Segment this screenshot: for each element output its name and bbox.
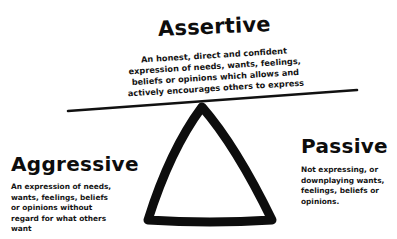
assertive-title: Assertive: [158, 14, 272, 40]
passive-title: Passive: [301, 136, 388, 156]
aggressive-description: An expression of needs, wants, feelings,…: [11, 182, 121, 235]
aggressive-description-line: wants, feelings, beliefs: [11, 193, 121, 204]
triangle-shape: [148, 107, 272, 222]
aggressive-description-line: or opinions without: [11, 203, 121, 214]
passive-description-line: downplaying wants,: [301, 176, 397, 187]
aggressive-title: Aggressive: [11, 154, 139, 174]
aggressive-description-line: An expression of needs,: [11, 182, 121, 193]
aggressive-description-line: regard for what others: [11, 214, 121, 225]
aggressive-description-line: want: [11, 224, 121, 235]
passive-description-line: feelings, beliefs or: [301, 186, 397, 197]
passive-description-line: Not expressing, or: [301, 165, 397, 176]
passive-description: Not expressing, or downplaying wants, fe…: [301, 165, 397, 207]
passive-description-line: opinions.: [301, 197, 397, 208]
